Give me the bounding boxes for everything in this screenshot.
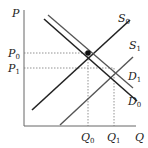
price-label-p1: P1 (7, 62, 20, 76)
curve-label-d0: D0 (127, 95, 141, 109)
curve-label-s1: S1 (129, 39, 141, 53)
curve-label-d1: D1 (127, 70, 141, 84)
quantity-label-q0: Q0 (81, 131, 95, 145)
demand-curve-d0 (44, 19, 137, 101)
supply-curve-s0 (32, 20, 130, 110)
x-axis-label: Q (135, 131, 144, 144)
demand-curve-d1 (48, 15, 133, 88)
supply-demand-diagram: P Q P0 P1 Q0 Q1 S0 S1 D1 D0 (0, 0, 148, 148)
y-axis-label: P (11, 7, 20, 20)
equilibrium-point (85, 50, 91, 56)
price-label-p0: P0 (7, 47, 20, 61)
curve-label-s0: S0 (118, 12, 130, 26)
quantity-label-q1: Q1 (107, 131, 121, 145)
supply-curve-s1 (60, 57, 133, 125)
